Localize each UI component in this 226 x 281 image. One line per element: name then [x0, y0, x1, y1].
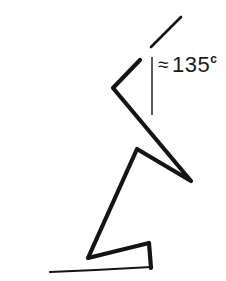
- approx-sign: ≈: [158, 54, 169, 75]
- zigzag-polyline: [88, 60, 191, 268]
- figure-canvas: ≈135c: [0, 0, 226, 281]
- angle-ray: [151, 17, 181, 47]
- ground-line: [50, 267, 151, 272]
- angle-unit: c: [210, 52, 217, 66]
- angle-annotation: ≈135c: [158, 54, 217, 76]
- geometry-figure: [0, 0, 226, 281]
- angle-value: 135: [172, 52, 210, 77]
